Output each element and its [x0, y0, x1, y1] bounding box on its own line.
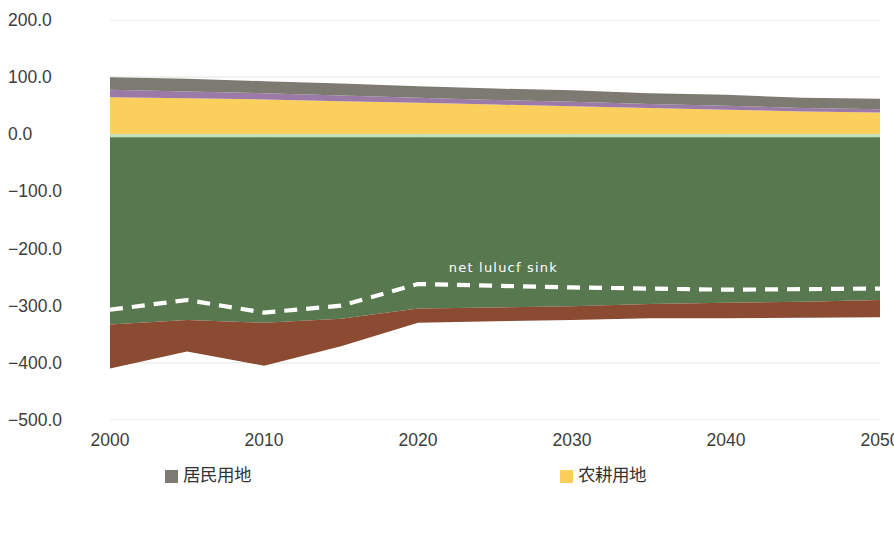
legend-item-label: 居民用地: [183, 467, 251, 485]
y-axis-tick-labels: 200.0100.00.0−100.0−200.0−300.0−400.0−50…: [8, 0, 104, 541]
x-tick-label: 2020: [399, 430, 438, 451]
x-tick-label: 2050: [861, 430, 894, 451]
x-tick-label: 2030: [553, 430, 592, 451]
area-series-forest: [110, 137, 880, 324]
y-tick-label: −100.0: [8, 181, 108, 202]
x-tick-label: 2010: [245, 430, 284, 451]
y-tick-label: −200.0: [8, 238, 108, 259]
y-tick-label: 100.0: [8, 67, 108, 88]
x-axis-tick-labels: 200020102020203020402050: [0, 424, 894, 458]
y-tick-label: −400.0: [8, 352, 108, 373]
legend-swatch-icon: [165, 470, 178, 483]
x-tick-label: 2040: [707, 430, 746, 451]
net-lulucf-sink-label: net lulucf sink: [449, 260, 558, 275]
area-series-grassland: [110, 134, 880, 137]
legend-item-label: 农耕用地: [578, 467, 646, 485]
plot-area: net lulucf sink: [110, 20, 880, 420]
y-tick-label: 200.0: [8, 10, 108, 31]
legend-item[interactable]: 居民用地: [165, 463, 410, 489]
stacked-area-chart: 200.0100.00.0−100.0−200.0−300.0−400.0−50…: [0, 0, 894, 541]
plot-svg: [110, 20, 880, 420]
legend-item[interactable]: 农耕用地: [560, 463, 805, 489]
chart-legend: 居民用地农耕用地森林用地湿地木制品草场: [165, 463, 725, 541]
y-tick-label: 0.0: [8, 124, 108, 145]
y-tick-label: −300.0: [8, 295, 108, 316]
x-tick-label: 2000: [91, 430, 130, 451]
legend-swatch-icon: [560, 470, 573, 483]
